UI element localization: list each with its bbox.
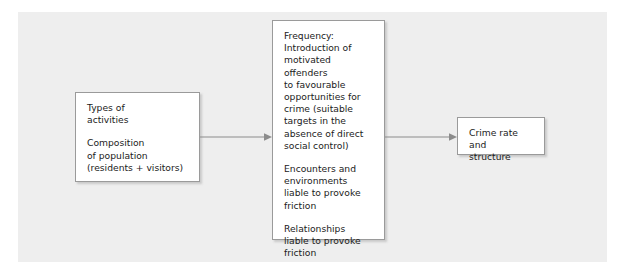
types-of-activities-box: Types of activities Composition of popul… xyxy=(75,92,200,182)
box-paragraph: Composition of population (residents + v… xyxy=(87,137,189,174)
box-paragraph: Frequency: Introduction of motivated off… xyxy=(284,30,374,152)
box-paragraph: Types of activities xyxy=(87,102,189,126)
diagram-canvas: Types of activities Composition of popul… xyxy=(18,12,607,262)
box-paragraph: Encounters and environments liable to pr… xyxy=(284,163,374,212)
frequency-box: Frequency: Introduction of motivated off… xyxy=(272,20,385,240)
crime-rate-box-body: Crime rate and structure xyxy=(458,118,544,173)
box-paragraph: Relationships liable to provoke friction xyxy=(284,223,374,260)
types-of-activities-box-body: Types of activities Composition of popul… xyxy=(76,93,199,183)
frequency-box-body: Frequency: Introduction of motivated off… xyxy=(273,21,384,268)
arrow-frequency-to-crime-rate xyxy=(385,131,458,143)
arrow-activities-to-frequency xyxy=(200,131,273,143)
crime-rate-box: Crime rate and structure xyxy=(457,117,545,155)
box-paragraph: Crime rate and structure xyxy=(469,127,534,164)
